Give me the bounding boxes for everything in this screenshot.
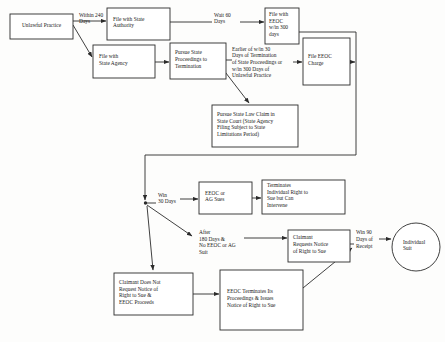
edge-label-win-90-days: Win 90Days ofReceipt bbox=[356, 229, 373, 248]
flowchart-canvas: Unlawful Practice File with StateAuthori… bbox=[0, 0, 445, 342]
node-eeoc-or-ag-sues-label: EEOC orAG Sues bbox=[205, 190, 225, 203]
edge-label-wait-60-days: Wait 60Days bbox=[214, 12, 231, 25]
node-file-eeoc-charge[interactable]: File EEOCCharge bbox=[303, 38, 350, 85]
flowchart-svg: Unlawful Practice File with StateAuthori… bbox=[0, 0, 445, 342]
node-file-state-agency[interactable]: File withState Agency bbox=[93, 45, 155, 78]
node-individual-suit[interactable]: IndividualSuit bbox=[392, 223, 440, 271]
flow-junction-node bbox=[144, 201, 147, 204]
edge-label-win-30-days: Win30 Days bbox=[158, 192, 176, 205]
node-claimant-requests-notice[interactable]: ClaimantRequests Noticeof Right to Sue bbox=[288, 230, 350, 262]
edge-unlawful-to-state-agency bbox=[73, 25, 92, 57]
node-eeoc-terminates[interactable]: EEOC Terminates ItsProceedings & IssuesN… bbox=[220, 270, 303, 330]
node-terminates-individual-right[interactable]: TerminatesIndividual Right toSue but Can… bbox=[262, 180, 345, 214]
node-unlawful-practice[interactable]: Unlawful Practice bbox=[10, 14, 73, 39]
edge-label-after-180-days: After180 Days &No EEOC or AGSuit bbox=[199, 229, 236, 255]
node-file-eeoc-300[interactable]: File withEEOCw/in 300days bbox=[265, 8, 299, 44]
node-claimant-does-not-request[interactable]: Claimant Does NotRequest Notice ofRight … bbox=[114, 273, 193, 315]
nodes-layer: Unlawful Practice File with StateAuthori… bbox=[10, 8, 440, 330]
node-file-state-authority[interactable]: File with StateAuthority bbox=[107, 8, 170, 40]
node-eeoc-or-ag-sues[interactable]: EEOC orAG Sues bbox=[199, 182, 252, 214]
node-pursue-state-proceedings[interactable]: Pursue StateProceedings toTermination bbox=[170, 43, 226, 79]
edge-label-within-240-days: Within 240Days bbox=[79, 12, 103, 25]
node-pursue-state-law-claim[interactable]: Pursue State Law Claim inState Court (St… bbox=[212, 105, 298, 147]
node-eeoc-terminates-label: EEOC Terminates ItsProceedings & IssuesN… bbox=[227, 288, 276, 307]
edge-junction-to-after180-label bbox=[147, 205, 192, 236]
edge-label-earlier-of-30-days: Earlier of w/in 30Days of Terminationof … bbox=[232, 46, 282, 78]
node-unlawful-practice-label: Unlawful Practice bbox=[22, 22, 62, 28]
edge-junction-to-claimant-does-not-request bbox=[147, 206, 153, 270]
